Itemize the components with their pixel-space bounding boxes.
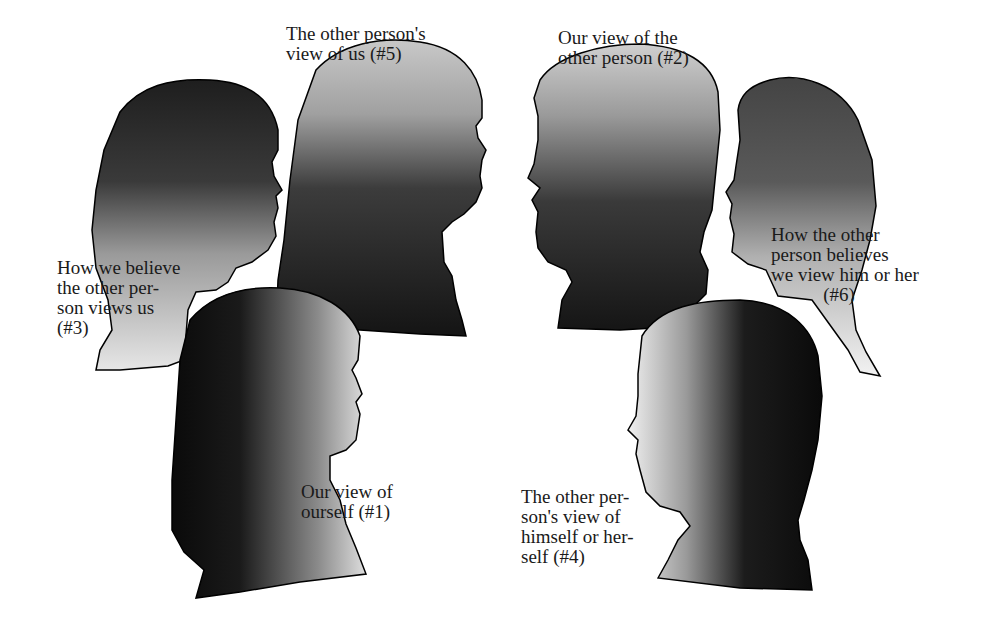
silhouette-view-4: [628, 300, 822, 590]
label-view-1: Our view of ourself (#1): [301, 482, 393, 522]
label-view-4: The other per- son's view of himself or …: [521, 487, 634, 567]
label-view-3: How we believe the other per- son views …: [57, 258, 180, 338]
silhouette-view-2: [528, 44, 720, 330]
silhouette-view-1: [172, 288, 366, 598]
label-view-2: Our view of the other person (#2): [558, 28, 689, 68]
interpersonal-perception-diagram: The other person's view of us (#5) Our v…: [0, 0, 1004, 644]
label-view-6: How the other person believes we view hi…: [771, 225, 919, 305]
label-view-5: The other person's view of us (#5): [286, 24, 426, 64]
